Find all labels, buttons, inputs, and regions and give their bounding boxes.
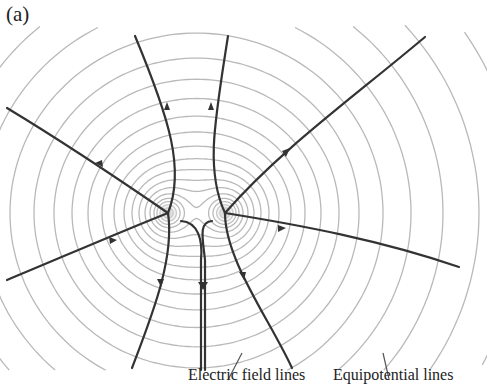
field-line-down-left <box>132 213 169 368</box>
arrow-icon <box>198 282 208 290</box>
field-diagram <box>0 0 487 384</box>
direction-arrows <box>95 102 290 290</box>
field-lines-label: Electric field lines <box>188 366 305 384</box>
equipotential-line <box>124 159 269 268</box>
equipotential-lines-label: Equipotential lines <box>333 366 453 384</box>
arrow-icon <box>278 225 286 232</box>
field-line-center-left <box>181 221 201 370</box>
arrow-icon <box>164 102 170 110</box>
equipotential-line <box>102 132 291 294</box>
equipotential-line <box>10 33 383 370</box>
electric-field-lines <box>7 36 459 370</box>
equipotential-line <box>72 99 321 328</box>
arrow-icon <box>109 237 117 244</box>
equipotential-line <box>465 32 487 365</box>
arrow-icon <box>157 279 164 287</box>
field-line-up-right <box>214 36 228 213</box>
equipotential-lines <box>0 25 487 370</box>
equipotential-line <box>132 170 261 257</box>
field-line-center-right <box>202 221 212 370</box>
arrow-icon <box>208 102 214 110</box>
panel-label: (a) <box>6 2 29 27</box>
equipotential-line <box>54 79 339 347</box>
field-line-upper-right <box>225 37 425 213</box>
equipotential-line <box>34 58 359 368</box>
equipotential-line <box>88 116 305 310</box>
